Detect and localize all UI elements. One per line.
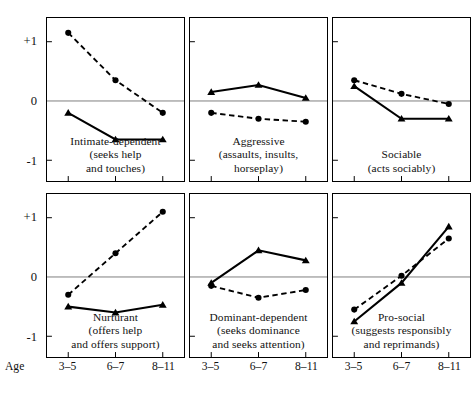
data-point-circle (446, 101, 452, 107)
x-tick-label: 6–7 (107, 360, 124, 373)
data-point-circle (303, 287, 309, 293)
data-point-circle (255, 116, 261, 122)
data-point-circle (351, 307, 357, 313)
x-tick-label: 3–5 (59, 360, 76, 373)
y-tick-label: 0 (31, 270, 37, 285)
y-tick-label: 0 (31, 94, 37, 109)
x-tick-label: 3–5 (202, 360, 219, 373)
data-point-triangle (350, 82, 358, 89)
panel-sociable: Sociable(acts sociably) (332, 17, 471, 182)
series-line-triangle-solid (68, 113, 163, 140)
data-point-circle (160, 110, 166, 116)
x-tick-label: 3–5 (345, 360, 362, 373)
y-axis: +10-1+10-1 (0, 17, 46, 358)
data-point-circle (351, 77, 357, 83)
data-point-triangle (445, 223, 453, 230)
data-point-circle (208, 110, 214, 116)
data-point-circle (65, 292, 71, 298)
x-tick-label: 8–11 (438, 360, 461, 373)
series-line-triangle-solid (211, 250, 306, 283)
x-tick-label: 8–11 (152, 360, 175, 373)
data-point-circle (65, 30, 71, 36)
x-tick-label: 6–7 (250, 360, 267, 373)
y-tick-label: -1 (27, 154, 38, 169)
data-point-circle (303, 119, 309, 125)
data-point-circle (112, 77, 118, 83)
y-tick-label: +1 (24, 210, 37, 225)
data-point-circle (255, 295, 261, 301)
data-point-circle (446, 235, 452, 241)
panel-dominant-dependent: Dominant-dependent(seeks dominanceand se… (189, 193, 328, 358)
x-tick-label: 6–7 (393, 360, 410, 373)
data-point-circle (398, 91, 404, 97)
panel-intimate-dependent: Intimate-dependent(seeks helpand touches… (46, 17, 185, 182)
x-axis: Age 3–56–78–113–56–78–113–56–78–11 (0, 358, 460, 378)
x-tick-label: 8–11 (295, 360, 318, 373)
age-axis-label: Age (5, 360, 24, 373)
y-tick-label: -1 (27, 330, 38, 345)
panel-aggressive: Aggressive(assaults, insults,horseplay) (189, 17, 328, 182)
data-point-circle (398, 273, 404, 279)
panel-nurturant: Nurturant(offers helpand offers support) (46, 193, 185, 358)
panel-grid: Intimate-dependent(seeks helpand touches… (46, 17, 446, 358)
data-point-circle (112, 250, 118, 256)
y-tick-label: +1 (24, 34, 37, 49)
panel-pro-social: Pro-social(suggests responsiblyand repri… (332, 193, 471, 358)
data-point-triangle (64, 109, 72, 116)
data-point-circle (160, 209, 166, 215)
